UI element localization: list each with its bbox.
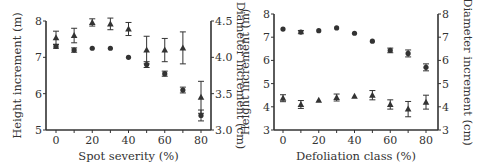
diameter-series [280, 91, 430, 117]
triangle-marker [280, 95, 287, 101]
y-left-tick-label: 7 [263, 31, 270, 44]
circle-marker [370, 39, 375, 44]
y-left-tick-label: 5 [35, 124, 42, 137]
y-right-tick-label: 3.0 [215, 124, 233, 137]
x-tick-label: 60 [383, 134, 397, 147]
y-left-tick-label: 3 [263, 124, 270, 137]
y-right-tick-label: 4 [442, 101, 449, 114]
circle-marker [352, 31, 357, 36]
circle-marker [280, 26, 285, 31]
circle-marker [72, 47, 77, 52]
circle-marker [334, 25, 339, 30]
triangle-marker [125, 25, 132, 31]
y-left-axis-label: Height increment (m) [238, 9, 252, 136]
triangle-marker [71, 32, 78, 38]
height-series [280, 25, 429, 71]
triangle-marker [333, 94, 340, 100]
y-left-tick-label: 7 [35, 51, 42, 64]
circle-marker [298, 29, 303, 34]
y-right-tick-label: 6 [442, 54, 449, 67]
x-tick-label: 20 [85, 134, 99, 147]
triangle-marker [198, 94, 205, 100]
spot-severity-chart: 56783.03.54.04.5020406080Spot severity (… [10, 2, 248, 163]
triangle-marker [387, 101, 394, 107]
circle-marker [108, 46, 113, 51]
triangle-marker [161, 47, 168, 53]
triangle-marker [369, 92, 376, 98]
x-tick-label: 20 [312, 134, 326, 147]
triangle-marker [143, 47, 150, 53]
triangle-marker [107, 20, 114, 26]
triangle-marker [89, 19, 96, 25]
y-left-tick-label: 8 [35, 15, 42, 28]
circle-marker [388, 48, 393, 53]
circle-marker [423, 65, 428, 70]
y-left-tick-label: 6 [35, 88, 42, 101]
x-tick-label: 0 [280, 134, 287, 147]
circle-marker [162, 71, 167, 76]
x-tick-label: 0 [53, 134, 60, 147]
y-right-tick-label: 3.5 [215, 88, 233, 101]
x-tick-label: 40 [348, 134, 362, 147]
y-right-tick-label: 5 [442, 78, 449, 91]
triangle-marker [315, 97, 322, 103]
y-left-tick-label: 4 [263, 101, 270, 114]
y-right-tick-label: 8 [442, 8, 449, 21]
y-left-tick-label: 5 [263, 78, 270, 91]
diameter-series [53, 18, 205, 113]
y-right-tick-label: 3 [442, 124, 449, 137]
dual-axis-charts: 56783.03.54.04.5020406080Spot severity (… [0, 0, 485, 167]
x-tick-label: 80 [419, 134, 433, 147]
triangle-marker [53, 34, 60, 40]
x-tick-label: 40 [122, 134, 136, 147]
y-left-tick-label: 8 [263, 8, 270, 21]
x-tick-label: 80 [194, 134, 208, 147]
circle-marker [406, 51, 411, 56]
y-right-tick-label: 7 [442, 31, 449, 44]
y-left-tick-label: 6 [263, 54, 270, 67]
x-axis-label: Defoliation class (%) [296, 149, 416, 163]
circle-marker [90, 46, 95, 51]
triangle-marker [423, 99, 430, 105]
y-right-axis-label: Diameter increment (cm) [461, 0, 475, 146]
circle-marker [316, 28, 321, 33]
triangle-marker [351, 93, 358, 99]
triangle-marker [180, 44, 187, 50]
x-tick-label: 60 [158, 134, 172, 147]
triangle-marker [298, 101, 305, 107]
circle-marker [180, 87, 185, 92]
defoliation-chart: 345678345678020406080Defoliation class (… [238, 0, 475, 163]
triangle-marker [405, 106, 412, 112]
y-right-tick-label: 4.0 [215, 51, 233, 64]
y-right-tick-label: 4.5 [215, 15, 233, 28]
height-series [53, 44, 204, 121]
x-axis-label: Spot severity (%) [78, 149, 178, 163]
circle-marker [126, 55, 131, 60]
y-left-axis-label: Height increment (m) [10, 12, 24, 139]
